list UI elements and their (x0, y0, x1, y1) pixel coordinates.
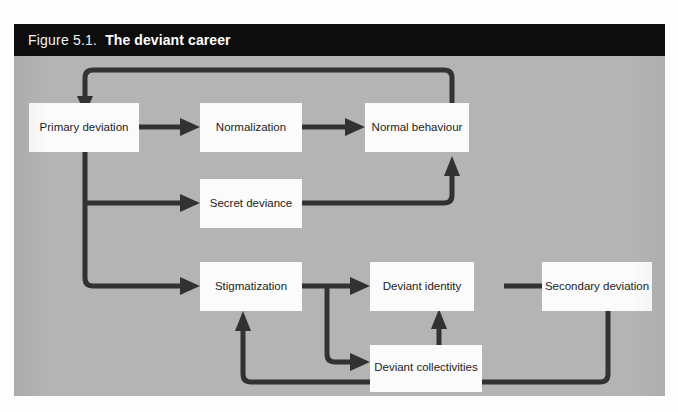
edge-stigmatization-to-deviant-collectivities (327, 286, 370, 371)
figure-number: Figure 5.1. (28, 32, 97, 48)
edge-secret-deviance-to-normal-behaviour (302, 156, 460, 203)
node-label-deviant-identity: Deviant identity (383, 280, 462, 292)
figure-title-bar: Figure 5.1. The deviant career (14, 24, 665, 56)
node-label-primary-deviation: Primary deviation (40, 121, 129, 133)
node-stigmatization[interactable]: Stigmatization (200, 262, 302, 311)
edge-deviant-collectivities-to-deviant-identity (431, 309, 447, 345)
node-label-normal-behaviour: Normal behaviour (372, 121, 463, 133)
flowchart-svg: Primary deviation Normalization Normal b… (14, 56, 665, 396)
figure-container: Figure 5.1. The deviant career (0, 0, 678, 412)
figure-title: The deviant career (105, 32, 231, 48)
edge-primary-deviation-to-stigmatization (85, 203, 200, 295)
node-label-deviant-collectivities: Deviant collectivities (374, 361, 478, 373)
node-secondary-deviation[interactable]: Secondary deviation (542, 262, 652, 311)
edge-primary-deviation-to-normalization (139, 118, 200, 136)
edge-primary-deviation-to-secret-deviance (85, 152, 200, 212)
diagram-panel: Primary deviation Normalization Normal b… (14, 56, 665, 396)
flow-connectors (77, 70, 608, 382)
node-deviant-collectivities[interactable]: Deviant collectivities (370, 345, 482, 392)
edge-normalization-to-normal-behaviour (302, 118, 365, 136)
node-label-normalization: Normalization (216, 121, 286, 133)
node-label-secret-deviance: Secret deviance (210, 197, 292, 209)
node-primary-deviation[interactable]: Primary deviation (29, 103, 139, 152)
edge-stigmatization-to-deviant-identity (302, 277, 370, 295)
flow-nodes: Primary deviation Normalization Normal b… (29, 103, 652, 392)
node-secret-deviance[interactable]: Secret deviance (200, 179, 302, 228)
node-normal-behaviour[interactable]: Normal behaviour (365, 103, 469, 152)
node-normalization[interactable]: Normalization (200, 103, 302, 152)
node-label-secondary-deviation: Secondary deviation (545, 280, 649, 292)
node-label-stigmatization: Stigmatization (215, 280, 287, 292)
node-deviant-identity[interactable]: Deviant identity (370, 262, 474, 311)
